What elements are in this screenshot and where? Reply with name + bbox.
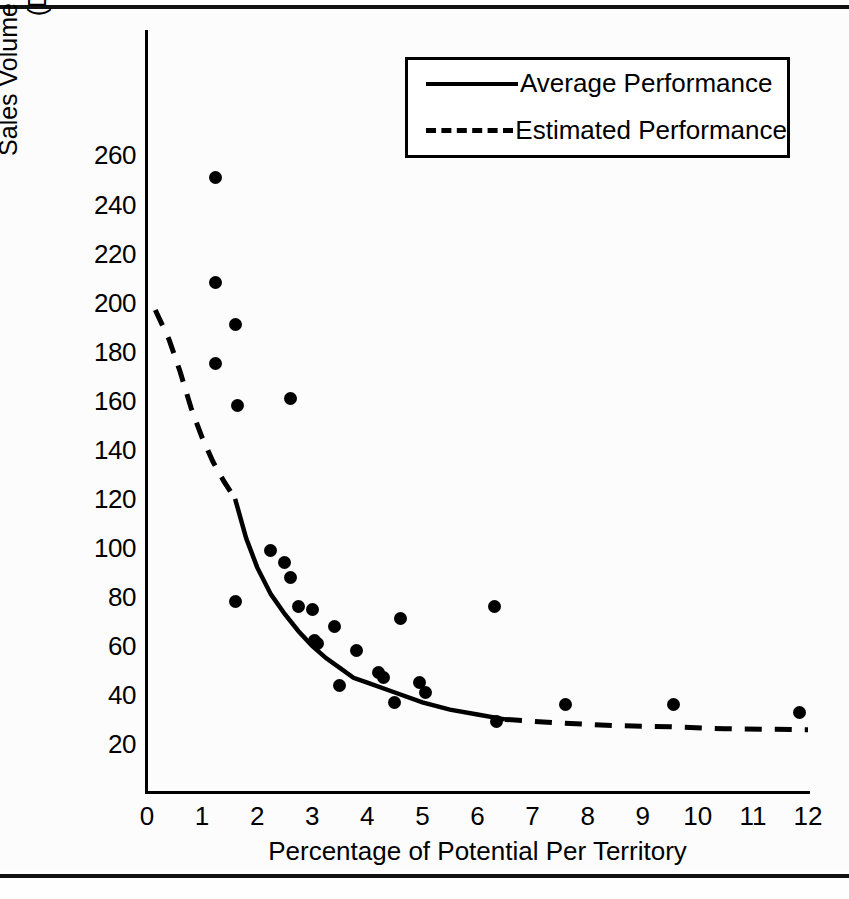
legend-label-estimated: Estimated Performance — [515, 115, 787, 146]
legend-swatch-dashed-icon — [426, 128, 513, 133]
scatter-point — [350, 644, 363, 657]
legend-entry-average: Average Performance — [408, 60, 787, 107]
legend-label-average: Average Performance — [520, 68, 772, 99]
top-rule — [0, 5, 849, 9]
scatter-point — [229, 318, 242, 331]
legend-entry-estimated: Estimated Performance — [408, 107, 787, 154]
scatter-point — [229, 595, 242, 608]
figure-area: 26024022020018016014012010080604020 0123… — [0, 14, 849, 870]
scatter-point — [419, 686, 432, 699]
scatter-point — [284, 392, 297, 405]
scatter-point — [328, 620, 341, 633]
chart-page: 26024022020018016014012010080604020 0123… — [0, 0, 849, 899]
scatter-point — [667, 698, 680, 711]
legend-box: Average Performance Estimated Performanc… — [405, 57, 790, 158]
legend-swatch-solid-icon — [426, 82, 518, 86]
estimated-performance-curve-2 — [505, 719, 808, 729]
scatter-point — [284, 571, 297, 584]
scatter-point — [793, 706, 806, 719]
scatter-point — [488, 600, 501, 613]
scatter-point — [333, 679, 346, 692]
scatter-point — [306, 603, 319, 616]
bottom-rule — [0, 874, 849, 878]
estimated-performance-curve-1 — [155, 310, 235, 499]
average-performance-curve — [235, 499, 505, 720]
